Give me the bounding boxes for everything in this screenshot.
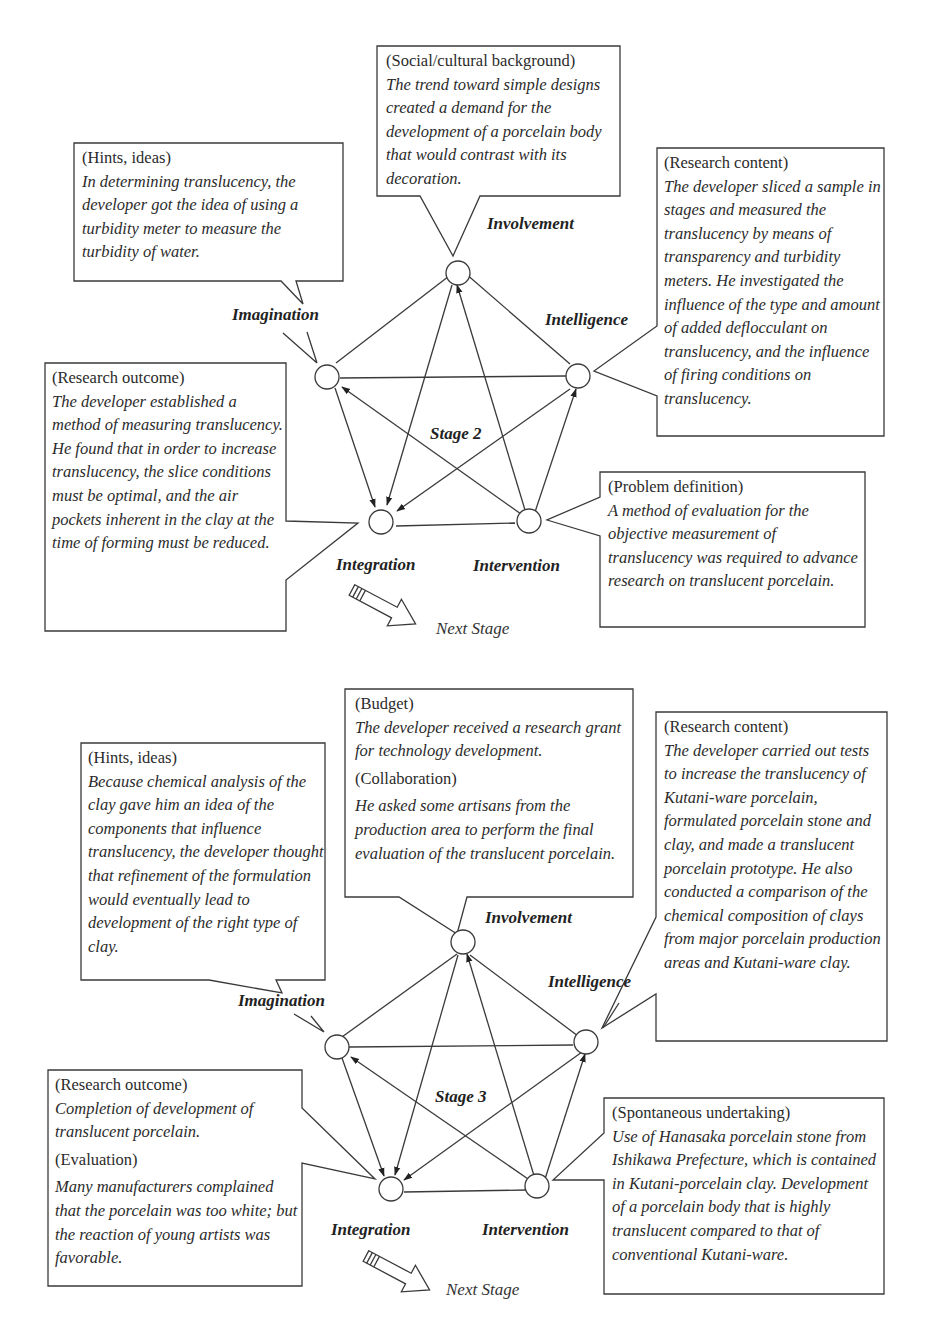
label-involvement-stage2: Involvement (487, 214, 574, 234)
box-text: In determining translucency, the develop… (82, 170, 340, 264)
box-text: The developer carried out tests to incre… (664, 739, 886, 975)
spontaneous-undertaking-box: (Spontaneous undertaking) Use of Hanasak… (612, 1101, 884, 1266)
box-text-2: He asked some artisans from the producti… (355, 794, 631, 865)
label-imagination-stage3: Imagination (238, 991, 325, 1011)
node-involvement-stage2 (446, 261, 470, 285)
problem-definition-box: (Problem definition) A method of evaluat… (608, 475, 864, 593)
node-integration-stage3 (379, 1177, 403, 1201)
next-stage-arrow-stage2 (345, 577, 423, 637)
box-heading: (Social/cultural background) (386, 49, 618, 73)
box-heading: (Research content) (664, 715, 886, 739)
box-text: Because chemical analysis of the clay ga… (88, 770, 324, 959)
next-stage-arrow-stage3 (359, 1243, 437, 1303)
hints-ideas-box-stage3: (Hints, ideas) Because chemical analysis… (88, 746, 324, 958)
node-intervention-stage3 (525, 1174, 549, 1198)
label-imagination-stage2: Imagination (232, 305, 319, 325)
box-text: The developer established a method of me… (52, 390, 284, 555)
box-heading: (Research outcome) (52, 366, 284, 390)
box-text: Use of Hanasaka porcelain stone from Ish… (612, 1125, 884, 1267)
box-text: Completion of development of translucent… (55, 1097, 301, 1144)
box-heading: (Research content) (664, 151, 884, 175)
box-heading: (Hints, ideas) (88, 746, 324, 770)
node-intervention-stage2 (517, 509, 541, 533)
next-stage-label-stage3: Next Stage (446, 1280, 519, 1300)
label-intervention-stage2: Intervention (473, 556, 560, 576)
stage-title-2: Stage 2 (430, 424, 481, 444)
label-intervention-stage3: Intervention (482, 1220, 569, 1240)
box-heading: (Spontaneous undertaking) (612, 1101, 884, 1125)
box-text: A method of evaluation for the objective… (608, 499, 864, 593)
node-imagination-stage2 (315, 365, 339, 389)
box-heading-2: (Evaluation) (55, 1148, 301, 1172)
node-imagination-stage3 (325, 1035, 349, 1059)
budget-collaboration-box: (Budget) The developer received a resear… (355, 692, 631, 865)
box-heading: (Hints, ideas) (82, 146, 340, 170)
hints-ideas-box-stage2: (Hints, ideas) In determining translucen… (82, 146, 340, 264)
label-intelligence-stage2: Intelligence (545, 310, 628, 330)
node-integration-stage2 (369, 510, 393, 534)
node-intelligence-stage2 (566, 364, 590, 388)
label-integration-stage2: Integration (336, 555, 415, 575)
next-stage-label-stage2: Next Stage (436, 619, 509, 639)
node-involvement-stage3 (451, 930, 475, 954)
box-heading: (Problem definition) (608, 475, 864, 499)
label-involvement-stage3: Involvement (485, 908, 572, 928)
box-heading: (Research outcome) (55, 1073, 301, 1097)
social-background-box: (Social/cultural background) The trend t… (386, 49, 618, 191)
box-heading: (Budget) (355, 692, 631, 716)
box-text-2: Many manufacturers complained that the p… (55, 1175, 301, 1269)
box-text: The trend toward simple designs created … (386, 73, 618, 191)
box-text: The developer sliced a sample in stages … (664, 175, 884, 411)
research-outcome-box-stage3: (Research outcome) Completion of develop… (55, 1073, 301, 1270)
research-content-box-stage2: (Research content) The developer sliced … (664, 151, 884, 411)
box-heading-2: (Collaboration) (355, 767, 631, 791)
label-intelligence-stage3: Intelligence (548, 972, 631, 992)
box-text: The developer received a research grant … (355, 716, 631, 763)
label-integration-stage3: Integration (331, 1220, 410, 1240)
research-outcome-box-stage2: (Research outcome) The developer establi… (52, 366, 284, 555)
research-content-box-stage3: (Research content) The developer carried… (664, 715, 886, 975)
node-intelligence-stage3 (574, 1030, 598, 1054)
stage-title-3: Stage 3 (435, 1087, 486, 1107)
